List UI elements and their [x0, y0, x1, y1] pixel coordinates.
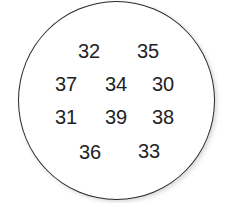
number-35: 35	[137, 41, 159, 61]
number-38: 38	[152, 107, 174, 127]
number-37: 37	[55, 74, 77, 94]
number-31: 31	[55, 107, 77, 127]
number-circle	[18, 1, 215, 200]
number-30: 30	[152, 74, 174, 94]
number-36: 36	[79, 142, 101, 162]
number-39: 39	[105, 107, 127, 127]
number-33: 33	[138, 141, 160, 161]
number-32: 32	[78, 41, 100, 61]
number-34: 34	[105, 74, 127, 94]
